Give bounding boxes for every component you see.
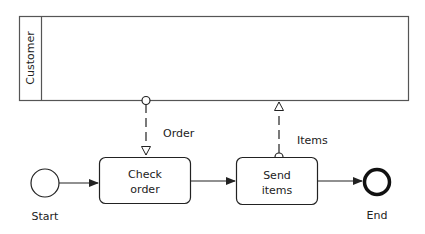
start-event[interactable]: Start <box>31 169 59 223</box>
start-event-label: Start <box>32 210 60 223</box>
bpmn-diagram: Customer Order Items Start Check order S… <box>0 0 425 234</box>
start-event-icon <box>31 169 59 197</box>
pool-label: Customer <box>24 31 37 85</box>
message-flow-items[interactable]: Items <box>275 102 328 161</box>
message-flow-order[interactable]: Order <box>142 97 195 156</box>
message-flow-label-order: Order <box>163 127 195 140</box>
task-send-items[interactable]: Send items <box>237 158 318 205</box>
end-event-icon <box>365 170 390 195</box>
pool-frame <box>20 17 409 101</box>
message-flow-source-icon <box>142 97 150 105</box>
task-label-line2: items <box>262 184 293 197</box>
end-event[interactable]: End <box>365 170 390 223</box>
task-label-line1: Check <box>128 168 162 181</box>
pool-customer[interactable]: Customer <box>20 17 409 101</box>
task-check-order[interactable]: Check order <box>100 158 191 204</box>
task-label-line2: order <box>130 183 160 196</box>
task-label-line1: Send <box>263 169 291 182</box>
message-flow-label-items: Items <box>297 134 328 147</box>
end-event-label: End <box>367 209 388 222</box>
